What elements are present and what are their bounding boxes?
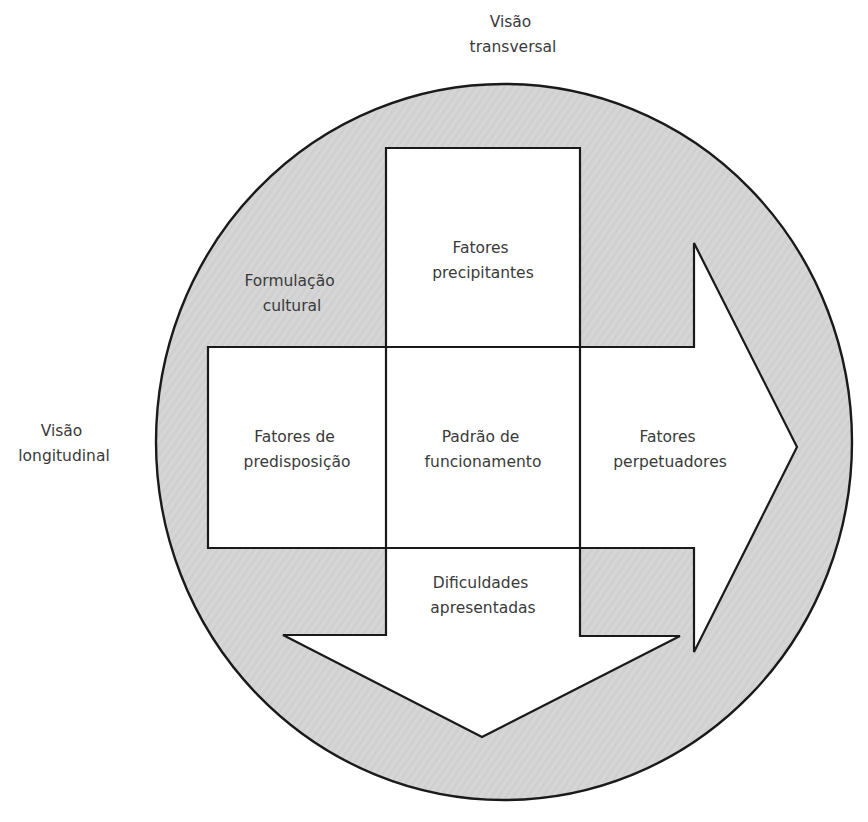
label-visao-transversal: Visão transversal — [470, 13, 557, 56]
case-formulation-diagram: Visão transversal Visão longitudinal For… — [0, 0, 868, 822]
label-visao-longitudinal: Visão longitudinal — [18, 422, 109, 465]
